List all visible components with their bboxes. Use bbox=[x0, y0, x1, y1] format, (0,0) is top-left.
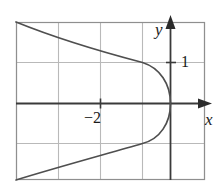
plot-canvas bbox=[0, 0, 224, 195]
plot-background bbox=[16, 22, 205, 180]
x-axis-label: x bbox=[205, 111, 213, 128]
y-tick-label-one: 1 bbox=[181, 54, 189, 70]
graph-figure: y x 1 −2 bbox=[0, 0, 224, 195]
x-tick-label-neg-two: −2 bbox=[84, 110, 101, 126]
y-axis-label: y bbox=[155, 21, 163, 38]
